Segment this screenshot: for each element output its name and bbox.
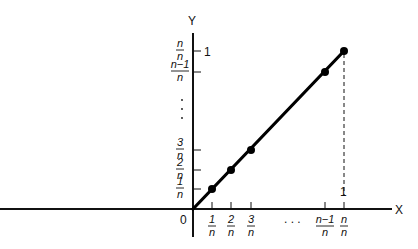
y-tick-label: nn xyxy=(176,37,184,62)
x-tick-label: n−1n xyxy=(316,213,335,238)
fraction-denominator: n xyxy=(177,169,183,181)
y-ticks: 1n2n3nn−1nnn xyxy=(171,37,201,200)
fraction-denominator: n xyxy=(177,71,183,83)
fraction-denominator: n xyxy=(228,226,234,238)
x-tick-label: 2n xyxy=(227,213,235,238)
x-ticks: 1n2n3nn−1nnn xyxy=(208,202,348,238)
data-point xyxy=(227,166,235,174)
data-point xyxy=(247,146,255,154)
y-axis-label: Y xyxy=(188,14,196,28)
fraction-numerator: 2 xyxy=(227,213,234,225)
fraction-numerator: 3 xyxy=(177,136,184,148)
fraction-numerator: n xyxy=(177,37,183,49)
data-point xyxy=(321,68,329,76)
y-tick-label: 3n xyxy=(176,136,184,161)
fraction-numerator: 3 xyxy=(248,213,255,225)
identity-line xyxy=(193,51,344,209)
fraction-denominator: n xyxy=(177,50,183,62)
data-point xyxy=(208,185,216,193)
x-tick-label: nn xyxy=(340,213,348,238)
fraction-numerator: 1 xyxy=(209,213,215,225)
x-ellipsis: . . . xyxy=(284,212,301,226)
fraction-denominator: n xyxy=(209,226,215,238)
x-top-one-label: 1 xyxy=(340,185,347,199)
x-tick-label: 1n xyxy=(208,213,216,238)
data-point xyxy=(340,47,348,55)
diagram-canvas: X Y 0 1n2n3nn−1nnn 1n2n3nn−1nnn . . . 1 … xyxy=(0,0,418,249)
fraction-denominator: n xyxy=(322,226,328,238)
x-axis-label: X xyxy=(395,203,403,217)
fraction-denominator: n xyxy=(177,149,183,161)
fraction-numerator: n−1 xyxy=(316,213,335,225)
fraction-denominator: n xyxy=(177,188,183,200)
x-tick-label: 3n xyxy=(247,213,255,238)
y-ellipsis xyxy=(181,99,183,119)
fraction-denominator: n xyxy=(248,226,254,238)
fraction-numerator: n xyxy=(341,213,347,225)
y-right-one-label: 1 xyxy=(204,45,211,59)
origin-label: 0 xyxy=(180,213,187,227)
fraction-denominator: n xyxy=(341,226,347,238)
